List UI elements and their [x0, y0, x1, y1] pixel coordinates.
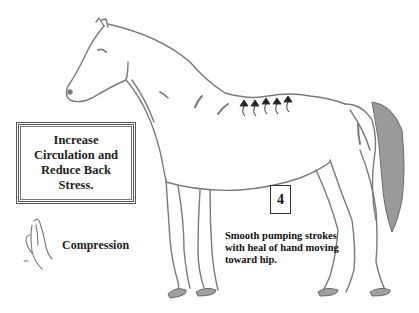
head-outline	[66, 26, 128, 102]
hoof	[196, 288, 216, 296]
goal-callout-box: Increase Circulation and Reduce Back Str…	[16, 122, 136, 204]
eye	[98, 49, 106, 52]
rump	[345, 104, 376, 220]
front-leg-right	[198, 190, 204, 288]
instructions-text: Smooth pumping strokes with heal of hand…	[225, 230, 345, 266]
stroke-arrows	[240, 96, 292, 116]
front-leg-left	[166, 180, 179, 296]
step-number: 4	[277, 192, 284, 208]
hoof	[370, 288, 390, 296]
belly	[166, 162, 330, 190]
neck-crest	[108, 24, 345, 104]
hoof	[318, 288, 338, 296]
step-number-box: 4	[270, 185, 291, 214]
hoof	[168, 289, 186, 298]
ear	[96, 18, 108, 27]
hind-leg-left	[330, 160, 355, 292]
goal-text: Increase Circulation and Reduce Back Str…	[25, 133, 127, 193]
technique-label: Compression	[62, 238, 129, 253]
hand-icon	[20, 215, 60, 277]
